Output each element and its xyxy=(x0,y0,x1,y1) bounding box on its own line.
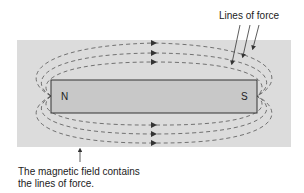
south-pole-label: S xyxy=(241,91,248,102)
lines-of-force-label: Lines of force xyxy=(219,10,279,21)
magnetic-field-diagram xyxy=(0,0,304,193)
caption-line-1: The magnetic field contains xyxy=(18,166,140,177)
bar-magnet xyxy=(51,80,257,113)
north-pole-label: N xyxy=(61,91,68,102)
caption-line-2: the lines of force. xyxy=(18,178,94,189)
